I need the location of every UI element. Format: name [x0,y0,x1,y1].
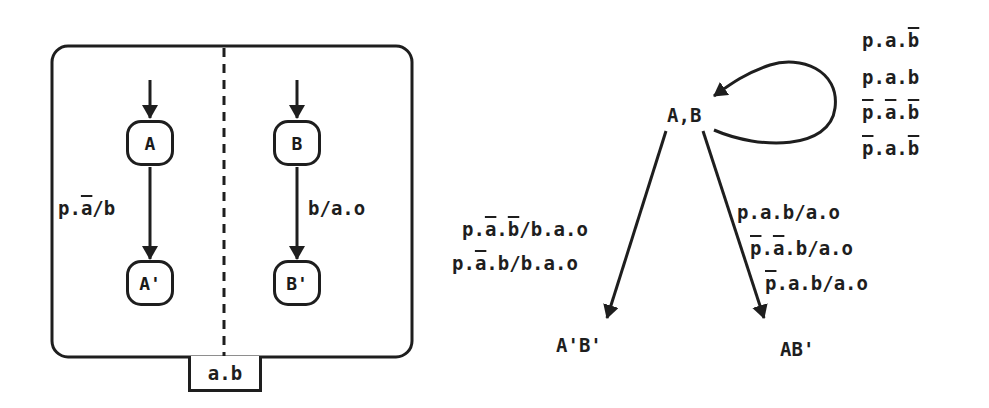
right-branch-label: p.a.b/a.o [765,272,868,294]
state-node-A-prime: A' [126,260,174,306]
target-state-AB-prime: AB' [780,338,814,360]
branch-arrow-left [607,131,666,318]
left-branch-label: p.a.b/b.a.o [462,218,588,240]
self-loop-label: p.a.b [862,101,919,123]
self-loop-label: p.a.b [862,137,919,159]
state-node-A: A [126,120,174,166]
condition-label: a.b [208,362,242,384]
state-label: A' [139,273,161,294]
transition-label-B: b/a.o [308,197,365,219]
diagram-lines [0,0,989,408]
state-label: B' [286,273,308,294]
state-node-B-prime: B' [273,260,321,306]
left-branch-label: p.a.b/b.a.o [452,252,578,274]
branch-arrow-right [703,131,764,318]
state-label: A [145,133,156,154]
self-loop-arrow [714,62,835,143]
target-state-A-prime-B-prime: A'B' [556,334,602,356]
self-loop-label: p.a.b [862,66,919,88]
state-node-B: B [273,120,321,166]
condition-box: a.b [188,356,262,392]
transition-label-A: p.a/b [58,197,115,219]
right-branch-label: p.a.b/a.o [750,237,853,259]
right-branch-label: p.a.b/a.o [737,201,840,223]
initial-state-AB: A,B [667,104,701,126]
state-label: B [292,133,303,154]
self-loop-label: p.a.b [862,29,919,51]
